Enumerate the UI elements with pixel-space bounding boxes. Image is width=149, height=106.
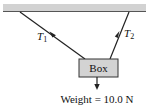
t2-subscript: 2 xyxy=(130,32,134,41)
weight-arrow xyxy=(94,77,99,90)
t1-subscript: 1 xyxy=(43,35,47,44)
tension-diagram: T1 T2 Box Weight = 10.0 N xyxy=(0,0,149,106)
box: Box xyxy=(79,59,118,77)
ceiling xyxy=(3,4,146,12)
t1-label: T1 xyxy=(37,30,47,44)
weight-label: Weight = 10.0 N xyxy=(60,93,133,105)
weight-arrow-icon xyxy=(94,84,99,90)
box-label: Box xyxy=(89,62,108,74)
t2-label: T2 xyxy=(124,27,134,41)
rope-t1 xyxy=(20,12,85,59)
